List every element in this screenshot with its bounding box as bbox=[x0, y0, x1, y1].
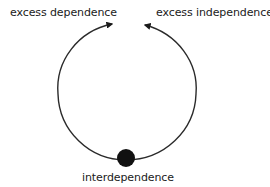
right-arc-arrow bbox=[126, 25, 196, 160]
interdependence-label: interdependence bbox=[82, 171, 174, 184]
excess-independence-label: excess independence bbox=[156, 6, 270, 19]
interdependence-dot bbox=[117, 149, 135, 167]
cycle-diagram bbox=[0, 0, 270, 187]
left-arc-arrow bbox=[58, 24, 126, 160]
excess-dependence-label: excess dependence bbox=[10, 6, 117, 19]
